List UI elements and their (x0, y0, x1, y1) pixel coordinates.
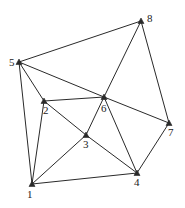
node-label-2: 2 (43, 104, 49, 116)
nodes-layer (16, 18, 172, 187)
edge-2-3 (44, 101, 86, 135)
edge-8-6 (104, 21, 141, 97)
edge-2-6 (44, 97, 104, 101)
triangle-node-icon-7 (166, 120, 172, 126)
node-label-1: 1 (27, 188, 33, 200)
edge-3-4 (86, 135, 137, 173)
edge-5-1 (19, 62, 32, 184)
node-label-8: 8 (147, 12, 153, 24)
graph-canvas: 12345678 (0, 0, 185, 208)
node-label-5: 5 (9, 56, 15, 68)
node-label-7: 7 (168, 126, 174, 138)
edge-5-8 (19, 21, 141, 62)
edge-8-7 (141, 21, 169, 123)
triangulation-graph-diagram: 12345678 (0, 0, 185, 208)
edge-3-1 (32, 135, 86, 184)
edge-5-6 (19, 62, 104, 97)
node-label-4: 4 (134, 176, 140, 188)
node-label-3: 3 (83, 138, 89, 150)
edge-4-7 (137, 123, 169, 173)
node-label-6: 6 (101, 102, 107, 114)
triangle-node-icon-8 (138, 18, 144, 24)
edge-1-4 (32, 173, 137, 184)
